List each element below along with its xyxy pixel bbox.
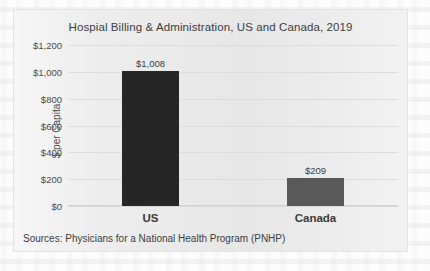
gridline — [68, 179, 398, 180]
gridline — [68, 45, 398, 46]
y-axis-tick-label: $1,000 — [33, 66, 62, 77]
plot-area: $1,200$1,000$800$600$400$200$0 $1,008US$… — [68, 45, 398, 206]
y-axis-tick-label: $600 — [41, 120, 62, 131]
bar-value-label: $209 — [305, 165, 326, 176]
y-axis-tick-label: $800 — [41, 93, 62, 104]
chart-title: Hospial Billing & Administration, US and… — [14, 21, 407, 33]
gridline — [68, 99, 398, 100]
scanned-page: Hospial Billing & Administration, US and… — [0, 0, 430, 271]
y-axis-tick-label: $0 — [51, 201, 62, 212]
y-axis-tick-label: $400 — [41, 147, 62, 158]
gridline — [68, 126, 398, 127]
source-note: Sources: Physicians for a National Healt… — [23, 233, 285, 244]
bar-chart: Hospial Billing & Administration, US and… — [13, 9, 408, 252]
x-axis-category-label: Canada — [295, 212, 337, 224]
x-axis-line — [68, 205, 398, 206]
gridline — [68, 206, 398, 207]
bar-canada[interactable]: $209Canada — [287, 45, 343, 206]
x-axis-category-label: US — [142, 212, 158, 224]
bar-value-label: $1,008 — [136, 58, 165, 69]
bar-us[interactable]: $1,008US — [122, 45, 178, 206]
gridline — [68, 72, 398, 73]
bar-rect — [122, 71, 178, 206]
bar-rect — [287, 178, 343, 206]
gridline — [68, 152, 398, 153]
y-axis-tick-label: $200 — [41, 174, 62, 185]
y-axis-tick-label: $1,200 — [33, 40, 62, 51]
